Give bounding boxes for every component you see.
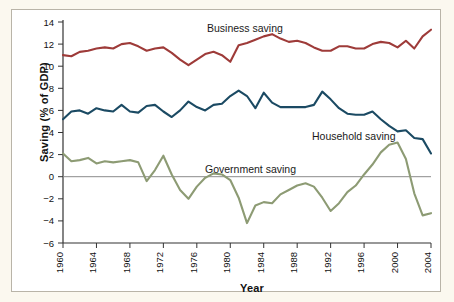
data-series-group — [63, 30, 431, 223]
x-axis-title: Year — [192, 282, 312, 294]
svg-text:2004: 2004 — [422, 252, 433, 273]
svg-text:−4: −4 — [43, 215, 54, 226]
figure-container: −6−4−202468101214 1960196419681972197619… — [0, 0, 454, 302]
svg-text:1968: 1968 — [121, 252, 132, 273]
chart-frame: −6−4−202468101214 1960196419681972197619… — [11, 9, 441, 292]
svg-text:1976: 1976 — [188, 252, 199, 273]
series-label-business-saving: Business saving — [207, 22, 283, 34]
svg-text:−6: −6 — [43, 238, 54, 249]
svg-text:1964: 1964 — [87, 252, 98, 273]
svg-text:1992: 1992 — [322, 252, 333, 273]
x-axis-ticks: 1960196419681972197619801984198819921996… — [54, 243, 433, 273]
svg-text:1984: 1984 — [255, 252, 266, 273]
svg-text:14: 14 — [43, 17, 54, 28]
svg-text:1988: 1988 — [288, 252, 299, 273]
series-label-household-saving: Household saving — [312, 130, 395, 142]
y-axis-title: Saving (% of GDP) — [38, 42, 50, 182]
svg-text:1972: 1972 — [154, 252, 165, 273]
svg-text:2000: 2000 — [389, 252, 400, 273]
svg-text:1960: 1960 — [54, 252, 65, 273]
line-chart-plot: −6−4−202468101214 1960196419681972197619… — [12, 10, 440, 291]
svg-text:1996: 1996 — [355, 252, 366, 273]
svg-text:−2: −2 — [43, 193, 54, 204]
series-label-government-saving: Government saving — [205, 163, 296, 175]
svg-text:1980: 1980 — [221, 252, 232, 273]
